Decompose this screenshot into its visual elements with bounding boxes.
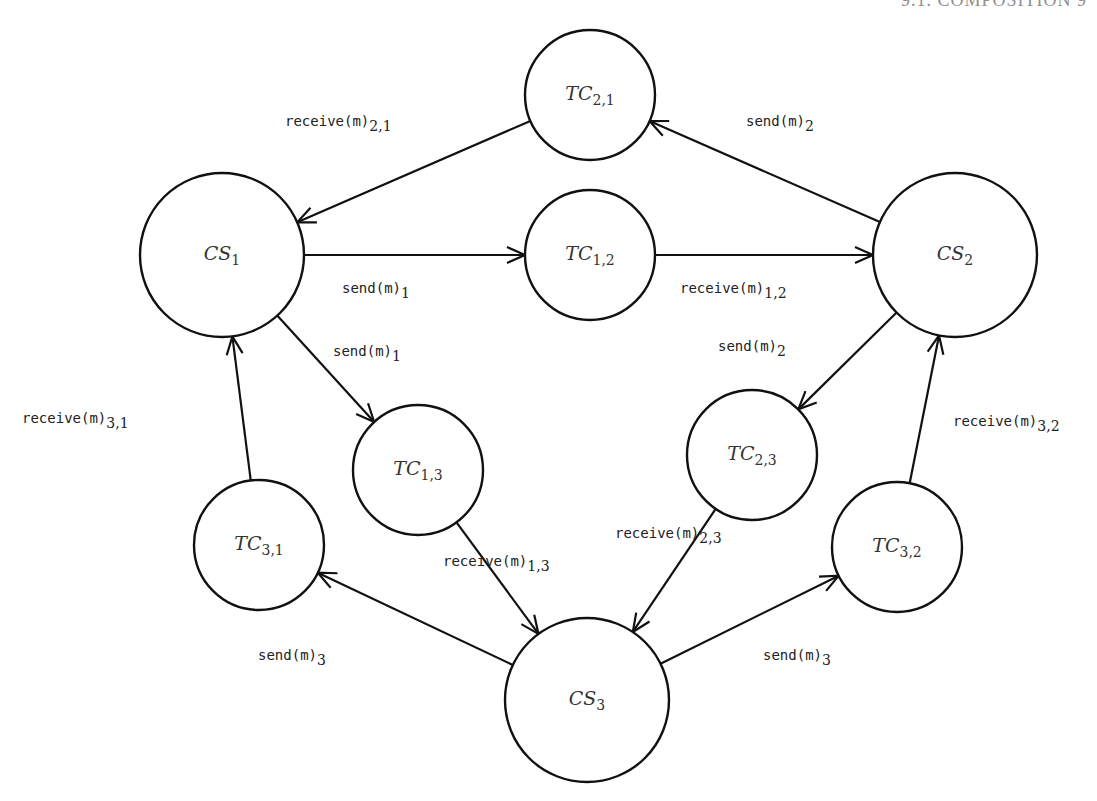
edge-label-subscript: 2,1 <box>369 118 391 134</box>
node-label-text: TC <box>565 242 592 264</box>
node-label-subscript: 2,3 <box>754 452 776 468</box>
edge-label-text: receive(m) <box>953 413 1037 429</box>
node-label: TC3,1 <box>234 532 283 558</box>
node-label-text: TC <box>565 82 592 104</box>
edge-label: receive(m)3,2 <box>953 413 1060 434</box>
edge-label: receive(m)1,2 <box>680 280 787 301</box>
edge-label-text: send(m) <box>333 343 392 359</box>
edge-TC32-to-CS2 <box>910 335 944 483</box>
node-label-subscript: 1,2 <box>592 252 614 268</box>
edge-label-text: receive(m) <box>443 553 527 569</box>
edge-CS1-to-TC12 <box>304 247 525 263</box>
node-label-text: CS <box>937 242 965 264</box>
node-label: CS1 <box>204 242 240 268</box>
edge-label-subscript: 2,3 <box>699 530 721 546</box>
diagram-canvas <box>0 0 1097 801</box>
edge-TC31-to-CS1 <box>227 336 251 480</box>
node-label-text: TC <box>393 457 420 479</box>
edge-label: receive(m)1,3 <box>443 553 550 574</box>
edge-line <box>650 121 880 222</box>
node-label: CS3 <box>569 687 605 713</box>
edge-label-subscript: 2 <box>805 118 814 134</box>
node-label-text: CS <box>204 242 232 264</box>
edge-label-subscript: 1,3 <box>527 558 549 574</box>
edge-label: receive(m)2,1 <box>285 113 392 134</box>
edge-label-subscript: 2 <box>777 343 786 359</box>
nodes-layer <box>140 30 1037 782</box>
node-label: TC1,3 <box>393 457 442 483</box>
edge-line <box>456 522 538 634</box>
edge-line <box>297 121 530 222</box>
edge-label: send(m)1 <box>342 280 410 301</box>
edge-label-subscript: 3 <box>822 652 831 668</box>
node-label-subscript: 1,3 <box>420 467 442 483</box>
edge-label-text: send(m) <box>718 338 777 354</box>
edge-label: send(m)1 <box>333 343 401 364</box>
edge-label-text: receive(m) <box>680 280 764 296</box>
node-label-text: TC <box>872 534 899 556</box>
edge-label: receive(m)2,3 <box>615 525 722 546</box>
node-label-text: TC <box>234 532 261 554</box>
node-label-subscript: 1 <box>231 252 240 268</box>
edge-label: receive(m)3,1 <box>22 410 129 431</box>
edge-label-text: receive(m) <box>285 113 369 129</box>
edge-line <box>232 336 250 480</box>
node-label-subscript: 3,2 <box>899 544 921 560</box>
edge-line <box>277 316 374 422</box>
edge-label: send(m)2 <box>746 113 814 134</box>
edge-label: send(m)2 <box>718 338 786 359</box>
edge-label-text: receive(m) <box>22 410 106 426</box>
node-label-text: CS <box>569 687 597 709</box>
edge-TC13-to-CS3 <box>456 522 538 634</box>
node-label: CS2 <box>937 242 973 268</box>
node-label: TC2,1 <box>565 82 614 108</box>
node-label-subscript: 3,1 <box>261 542 283 558</box>
edge-label-subscript: 1,2 <box>764 285 786 301</box>
edge-label-subscript: 1 <box>392 348 401 364</box>
edge-label-subscript: 3 <box>317 652 326 668</box>
edge-label-subscript: 3,1 <box>106 415 128 431</box>
node-label-subscript: 3 <box>596 697 605 713</box>
edge-label: send(m)3 <box>763 647 831 668</box>
edge-label-subscript: 3,2 <box>1037 418 1059 434</box>
node-label-text: TC <box>727 442 754 464</box>
node-label: TC1,2 <box>565 242 614 268</box>
node-label-subscript: 2,1 <box>592 92 614 108</box>
edge-CS2-to-TC21 <box>650 121 880 222</box>
edge-TC12-to-CS2 <box>655 247 873 263</box>
edge-CS1-to-TC13 <box>277 316 374 422</box>
node-label: TC2,3 <box>727 442 776 468</box>
edge-CS2-to-TC23 <box>798 313 896 410</box>
node-label-subscript: 2 <box>964 252 973 268</box>
edge-label-text: send(m) <box>258 647 317 663</box>
edge-label-subscript: 1 <box>401 285 410 301</box>
edge-line <box>318 573 513 665</box>
edge-CS3-to-TC31 <box>318 573 513 665</box>
edge-label-text: receive(m) <box>615 525 699 541</box>
edge-TC21-to-CS1 <box>297 121 530 223</box>
edge-label-text: send(m) <box>763 647 822 663</box>
edge-line <box>910 335 939 483</box>
edge-label-text: send(m) <box>342 280 401 296</box>
edge-label: send(m)3 <box>258 647 326 668</box>
node-label: TC3,2 <box>872 534 921 560</box>
edge-line <box>798 313 896 410</box>
edge-label-text: send(m) <box>746 113 805 129</box>
